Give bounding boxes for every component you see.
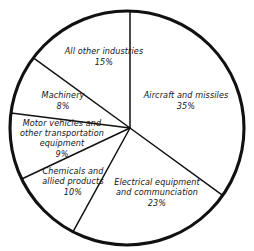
slice-label-text-machinery: Machinery [42,91,85,101]
slice-label-text-chemicals: allied products [42,177,103,187]
slice-percent-electrical: 23% [114,198,200,208]
slice-label-aircraft: Aircraft and missiles35% [144,91,229,112]
pie-chart: Aircraft and missiles35%Electrical equip… [0,0,254,251]
slice-percent-chemicals: 10% [42,187,103,197]
slice-percent-all-other: 15% [65,58,144,68]
slice-label-chemicals: Chemicals andallied products10% [42,167,103,198]
slice-label-text-electrical: and communciation [114,188,200,198]
slice-label-text-motor-vehicles: equipment [20,139,104,149]
slice-label-electrical: Electrical equipmentand communciation23% [114,178,200,209]
slice-label-machinery: Machinery8% [42,91,85,112]
slice-percent-machinery: 8% [42,102,85,112]
slice-label-text-aircraft: Aircraft and missiles [144,91,229,101]
slice-label-all-other: All other industries15% [65,47,144,68]
slice-label-text-all-other: All other industries [65,47,144,57]
slice-label-motor-vehicles: Motor vehicles andother transportationeq… [20,119,104,159]
slice-percent-motor-vehicles: 9% [20,149,104,159]
slice-percent-aircraft: 35% [144,102,229,112]
